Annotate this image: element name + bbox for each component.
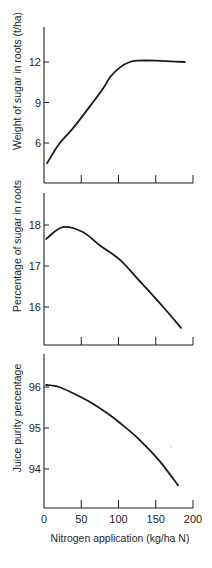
y-tick-label: 94: [29, 463, 41, 475]
data-line: [46, 227, 181, 328]
y-axis-label: Weight of sugar in roots (t/ha): [11, 12, 23, 150]
y-tick-label: 9: [35, 97, 41, 109]
y-axis-label: Juice purity percentage: [11, 364, 23, 473]
print-speck: [170, 446, 171, 447]
y-ticks: 949596: [29, 381, 49, 475]
y-tick-label: 96: [29, 381, 41, 393]
x-ticks: [81, 500, 193, 508]
x-axis-label: Nitrogen application (kg/ha N): [51, 532, 190, 544]
x-tick-label: 50: [75, 513, 87, 525]
data-line: [46, 385, 178, 485]
x-ticks: [81, 175, 193, 183]
panel-juice-purity: Juice purity percentage 949596 050100150…: [11, 354, 202, 544]
panel-sugar-weight: Weight of sugar in roots (t/ha) 6912: [11, 12, 193, 183]
x-tick-label: 200: [184, 513, 202, 525]
data-line: [47, 61, 185, 164]
stacked-line-charts: Weight of sugar in roots (t/ha) 6912 Per…: [0, 0, 212, 568]
y-tick-label: 95: [29, 422, 41, 434]
y-tick-label: 18: [29, 219, 41, 231]
y-tick-label: 16: [29, 301, 41, 313]
y-tick-label: 6: [35, 137, 41, 149]
x-tick-label: 150: [147, 513, 165, 525]
y-ticks: 161718: [29, 219, 49, 313]
x-ticks: [81, 337, 193, 345]
y-tick-label: 12: [29, 56, 41, 68]
y-tick-label: 17: [29, 260, 41, 272]
x-tick-label: 0: [41, 513, 47, 525]
x-tick-label: 100: [109, 513, 127, 525]
y-ticks: 6912: [29, 56, 49, 149]
panel-sugar-percentage: Percentage of sugar in roots 161718: [11, 180, 193, 345]
y-axis-label: Percentage of sugar in roots: [11, 180, 23, 312]
x-tick-labels: 050100150200: [41, 513, 202, 525]
